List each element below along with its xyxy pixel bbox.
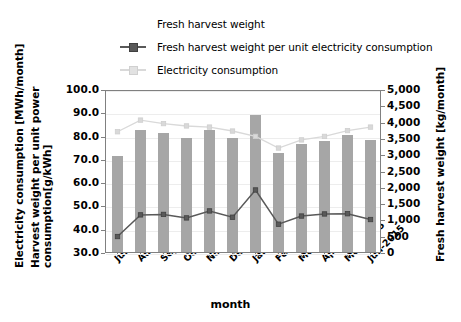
- y-axis-right-title: Fresh harvest weight [kg/month]: [434, 67, 446, 262]
- line-path: [118, 190, 371, 237]
- data-point-marker: [276, 222, 280, 226]
- data-point-marker: [115, 130, 119, 134]
- y-axis-left-title-line1: Electricity consumption [MWh/month]: [13, 44, 25, 268]
- legend-item-fresh-harvest-weight: Fresh harvest weight: [118, 14, 418, 33]
- line-light-icon: [118, 64, 148, 76]
- y-tick-label-left: 50.0: [53, 199, 99, 211]
- data-point-marker: [230, 129, 234, 133]
- y-axis-left-title-line2a: Harvest weight per unit power: [29, 68, 41, 268]
- tick-mark: [101, 253, 105, 254]
- gridline: [106, 254, 380, 255]
- data-point-marker: [345, 212, 349, 216]
- chart-container: Fresh harvest weight Fresh harvest weigh…: [0, 0, 461, 322]
- line-path: [118, 120, 371, 148]
- data-point-marker: [115, 234, 119, 238]
- data-point-marker: [207, 125, 211, 129]
- y-tick-label-left: 100.0: [53, 83, 99, 95]
- data-point-marker: [299, 214, 303, 218]
- y-tick-label-left: 40.0: [53, 223, 99, 235]
- y-tick-label-left: 90.0: [53, 106, 99, 118]
- data-point-marker: [184, 124, 188, 128]
- y-tick-label-right: 4,500: [387, 99, 433, 111]
- y-tick-label-right: 4,000: [387, 116, 433, 128]
- legend-label: Fresh harvest weight: [157, 18, 265, 30]
- data-point-marker: [161, 212, 165, 216]
- data-point-marker: [368, 125, 372, 129]
- data-point-marker: [276, 146, 280, 150]
- data-point-marker: [299, 138, 303, 142]
- y-tick-label-right: 2,000: [387, 181, 433, 193]
- data-point-marker: [368, 217, 372, 221]
- x-axis-title: month: [0, 298, 461, 311]
- bar-swatch-icon: [118, 18, 148, 30]
- y-axis-left-title-line2: Harvest weight per unit power consumptio…: [29, 68, 53, 268]
- y-tick-label-right: 3,000: [387, 148, 433, 160]
- y-tick-label-right: 1,500: [387, 197, 433, 209]
- data-point-marker: [184, 216, 188, 220]
- y-tick-label-right: 1,000: [387, 213, 433, 225]
- data-point-marker: [345, 128, 349, 132]
- line-marker-dark-icon: [118, 41, 148, 53]
- y-tick-label-right: 0: [387, 246, 433, 258]
- line-series: [106, 91, 382, 254]
- data-point-marker: [138, 118, 142, 122]
- y-tick-label-left: 80.0: [53, 130, 99, 142]
- y-tick-label-left: 60.0: [53, 176, 99, 188]
- data-point-marker: [230, 215, 234, 219]
- chart-legend: Fresh harvest weight Fresh harvest weigh…: [118, 14, 418, 83]
- y-tick-label-left: 30.0: [53, 246, 99, 258]
- data-point-marker: [253, 188, 257, 192]
- legend-item-electricity-consumption: Electricity consumption: [118, 60, 418, 79]
- y-tick-label-right: 2,500: [387, 165, 433, 177]
- legend-item-weight-per-unit-electricity: Fresh harvest weight per unit electricit…: [118, 37, 418, 56]
- plot-area: [105, 90, 381, 253]
- legend-label: Fresh harvest weight per unit electricit…: [157, 41, 433, 53]
- data-point-marker: [253, 134, 257, 138]
- legend-label: Electricity consumption: [157, 64, 278, 76]
- data-point-marker: [161, 121, 165, 125]
- data-point-marker: [207, 209, 211, 213]
- y-tick-label-right: 3,500: [387, 132, 433, 144]
- y-tick-label-right: 5,000: [387, 83, 433, 95]
- data-point-marker: [322, 134, 326, 138]
- data-point-marker: [138, 213, 142, 217]
- y-tick-label-left: 70.0: [53, 153, 99, 165]
- data-point-marker: [322, 212, 326, 216]
- y-axis-left-title-line2b: consumption[g/kWh]: [41, 68, 53, 268]
